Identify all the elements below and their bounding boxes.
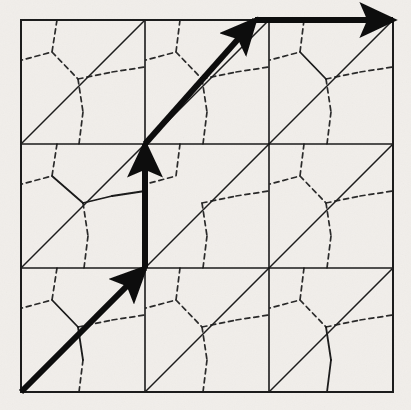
lattice-figure	[0, 0, 411, 410]
lattice-diagram-canvas	[0, 0, 411, 410]
